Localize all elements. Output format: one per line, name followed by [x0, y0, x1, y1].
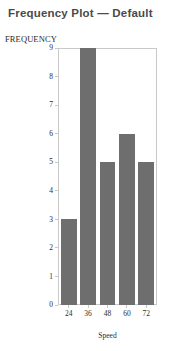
bar — [119, 134, 135, 305]
x-axis-tick-mark — [126, 305, 127, 308]
x-axis-tick-mark — [88, 305, 89, 308]
bar-slot — [59, 48, 78, 305]
bar — [61, 219, 77, 305]
y-axis: 0123456789 — [0, 0, 58, 351]
bar-slot — [117, 48, 136, 305]
bar-slot — [137, 48, 156, 305]
bar — [138, 162, 154, 305]
x-axis-tick-label: 36 — [84, 310, 92, 318]
x-axis-tick-mark — [107, 305, 108, 308]
x-axis: 2436486072 — [59, 305, 156, 318]
x-axis-tick-mark — [146, 305, 147, 308]
x-axis-tick-label: 48 — [104, 310, 112, 318]
bar-series — [59, 48, 156, 305]
x-axis-tick-label: 72 — [143, 310, 151, 318]
x-axis-label: Speed — [59, 331, 156, 340]
bar-slot — [98, 48, 117, 305]
x-axis-tick: 60 — [117, 305, 136, 318]
x-axis-tick-label: 24 — [65, 310, 73, 318]
x-axis-tick-label: 60 — [123, 310, 131, 318]
bar — [80, 48, 96, 305]
x-axis-tick: 72 — [137, 305, 156, 318]
bar-slot — [78, 48, 97, 305]
x-axis-tick-mark — [68, 305, 69, 308]
bar — [100, 162, 116, 305]
x-axis-tick: 48 — [98, 305, 117, 318]
x-axis-tick: 24 — [59, 305, 78, 318]
x-axis-tick: 36 — [78, 305, 97, 318]
